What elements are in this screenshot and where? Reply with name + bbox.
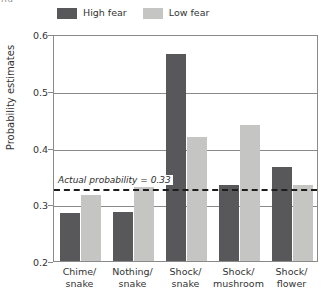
x-tick-label: Chime/snake — [53, 266, 106, 289]
bar-high-fear — [113, 212, 133, 261]
chart-legend: High fear Low fear — [57, 5, 209, 21]
bar-group — [60, 36, 101, 261]
bar-series-container — [54, 36, 317, 261]
bar-group — [272, 36, 313, 261]
legend-swatch-high-fear — [57, 8, 77, 19]
y-tick-label: 0.6 — [33, 30, 48, 41]
x-tick-label-line: Shock/ — [159, 266, 212, 278]
bar-high-fear — [166, 54, 186, 261]
x-tick-label-line: snake — [159, 278, 212, 290]
bar-high-fear — [219, 185, 239, 261]
legend-item-low-fear: Low fear — [143, 8, 210, 19]
x-tick-label: Nothing/snake — [106, 266, 159, 289]
x-tick-label-line: snake — [53, 278, 106, 290]
x-axis-labels: Chime/snakeNothing/snakeShock/snakeShock… — [53, 266, 318, 296]
legend-item-high-fear: High fear — [57, 8, 127, 19]
bar-group — [166, 36, 207, 261]
x-tick-label-line: Chime/ — [53, 266, 106, 278]
x-tick-label-line: snake — [106, 278, 159, 290]
legend-label-high-fear: High fear — [83, 8, 127, 18]
y-tick-label: 0.2 — [33, 257, 48, 268]
y-tick-label: 0.3 — [33, 200, 48, 211]
bar-low-fear — [81, 195, 101, 261]
clipped-header-fragment: nd — [1, 0, 13, 4]
x-tick-label: Shock/mushroom — [212, 266, 265, 289]
actual-probability-label: Actual probability = 0.33 — [56, 175, 173, 185]
legend-label-low-fear: Low fear — [169, 8, 210, 18]
legend-swatch-low-fear — [143, 8, 163, 19]
bar-low-fear — [187, 137, 207, 261]
x-tick-label-line: Shock/ — [265, 266, 318, 278]
x-tick-label: Shock/flower — [265, 266, 318, 289]
y-tick-label: 0.4 — [33, 143, 48, 154]
x-tick-label-line: Nothing/ — [106, 266, 159, 278]
x-tick-label-line: Shock/ — [212, 266, 265, 278]
y-axis-ticks: 0.20.30.40.50.6 — [0, 35, 48, 262]
bar-group — [219, 36, 260, 261]
bar-group — [113, 36, 154, 261]
bar-low-fear — [293, 185, 313, 261]
y-tick-label: 0.5 — [33, 86, 48, 97]
actual-probability-line — [54, 189, 317, 191]
x-tick-label-line: mushroom — [212, 278, 265, 290]
bar-low-fear — [134, 187, 154, 261]
plot-area: Actual probability = 0.33 — [53, 35, 318, 262]
y-tick-mark — [48, 262, 53, 263]
bar-low-fear — [240, 125, 260, 261]
x-tick-label-line: flower — [265, 278, 318, 290]
bar-high-fear — [272, 167, 292, 261]
x-tick-label: Shock/snake — [159, 266, 212, 289]
bar-high-fear — [60, 213, 80, 261]
